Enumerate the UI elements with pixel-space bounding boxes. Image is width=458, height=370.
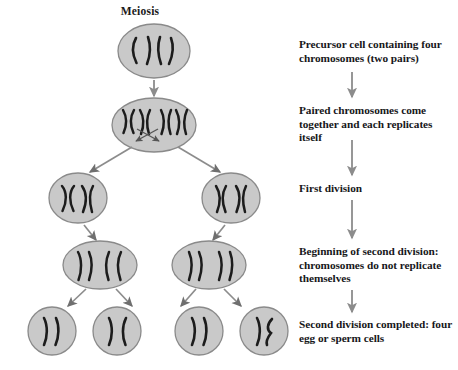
caption-paired-replicates: Paired chromosomes come together and eac… xyxy=(299,104,455,145)
stage-4-cell-left xyxy=(63,241,137,289)
stage-5-cell-4 xyxy=(240,307,288,355)
stage-1-cell xyxy=(118,24,190,78)
arrow-stage3-to-stage4-right xyxy=(213,225,225,240)
stage-2-cell xyxy=(112,98,196,152)
caption-second-division-completed: Second division completed: four egg or s… xyxy=(299,318,455,345)
arrow-stage2-to-stage3-left xyxy=(90,147,132,172)
meiosis-figure: Meiosis xyxy=(0,0,458,370)
arrow-stage4-to-stage5-b xyxy=(116,289,132,306)
stage-4-cell-right xyxy=(172,241,246,289)
caption-precursor-cell: Precursor cell containing four chromosom… xyxy=(299,38,455,65)
caption-second-division-beginning: Beginning of second division: chromosome… xyxy=(299,245,455,286)
arrow-stage4-to-stage5-d xyxy=(224,289,241,306)
stage-5-cell-1 xyxy=(28,307,76,355)
arrow-stage4-to-stage5-a xyxy=(68,289,86,306)
arrow-stage4-to-stage5-c xyxy=(181,289,196,306)
stage-5-cell-2 xyxy=(93,307,141,355)
stage-3-cell-right xyxy=(202,173,260,223)
caption-first-division: First division xyxy=(299,182,455,196)
stage-3-cell-left xyxy=(49,173,107,223)
arrow-stage2-to-stage3-right xyxy=(178,147,220,172)
stage-5-cell-3 xyxy=(175,307,223,355)
arrow-stage3-to-stage4-left xyxy=(84,225,96,240)
